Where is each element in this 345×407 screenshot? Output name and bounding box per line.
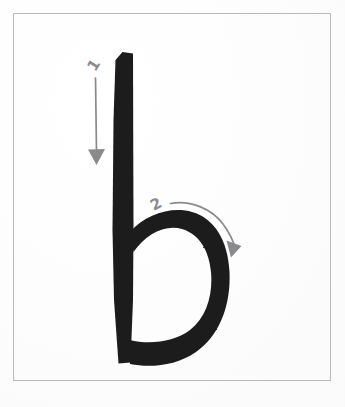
letter-b-bowl — [130, 210, 230, 366]
stroke-1-arrow — [88, 78, 105, 165]
letter-and-arrows-artwork — [0, 0, 345, 407]
stroke-1-arrow-shaft — [96, 78, 97, 152]
letter-b-stem — [113, 52, 134, 364]
stroke-1-arrowhead — [88, 149, 105, 165]
diagram-canvas: 1 2 — [0, 0, 345, 407]
letter-b-glyph — [113, 52, 230, 366]
